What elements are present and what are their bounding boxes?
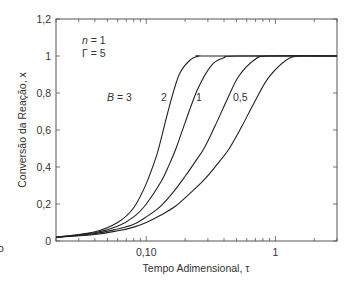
y-tick-label: 0,6 [36,124,51,136]
curve-series-0 [56,56,337,238]
curve-series-1 [56,56,337,237]
annotation-n-value: = 1 [88,34,106,46]
y-tick-label: 0,2 [36,198,51,210]
annotation-n: n = 1 [82,34,106,46]
curve-series-3 [56,56,337,238]
y-tick-label: 1,2 [36,13,51,25]
conversion-vs-time-chart: 00,20,40,60,811,2 0,101 B = 3210,5 Tempo… [0,0,354,281]
curve-series-2 [56,56,337,238]
x-axis-title: Tempo Adimensional, τ [143,262,251,274]
y-tick-label: 1 [45,50,51,62]
y-axis-title: Conversão da Reação, x [16,71,28,187]
cropped-fragment: o [0,242,4,254]
curve-label: B = 3 [107,91,132,103]
x-tick-label: 0,10 [136,246,157,258]
series-curves [56,56,337,238]
y-tick-label: 0 [45,235,51,247]
y-tick-label: 0,8 [36,87,51,99]
curve-label: 2 [161,91,167,103]
x-tick-label: 1 [272,246,278,258]
annotation-gamma: Γ = 5 [82,47,106,59]
y-tick-label: 0,4 [36,161,51,173]
curve-label: 0,5 [233,91,248,103]
curve-label: 1 [196,91,202,103]
